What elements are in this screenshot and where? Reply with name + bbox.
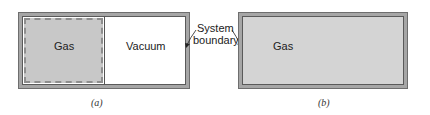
gas-label-b: Gas xyxy=(273,40,293,52)
gas-region-b xyxy=(242,16,404,85)
caption-b: (b) xyxy=(318,97,330,108)
